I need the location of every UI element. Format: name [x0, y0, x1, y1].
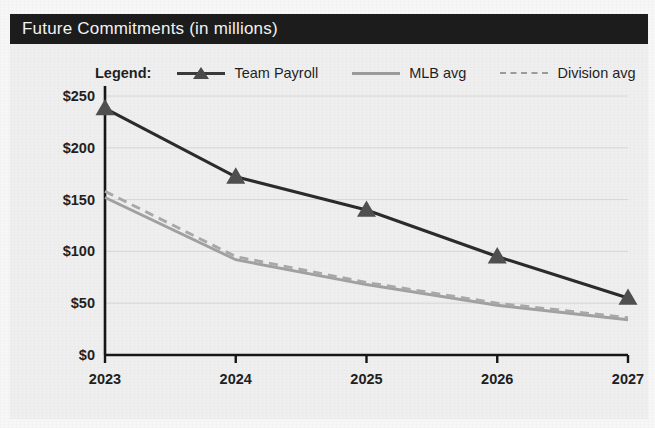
line-chart: $0$50$100$150$200$250 202320242025202620… — [10, 44, 648, 419]
y-tick-label: $200 — [63, 140, 95, 156]
x-tick-label: 2025 — [350, 371, 382, 387]
y-tick-label: $150 — [63, 192, 95, 208]
x-tick-label: 2026 — [481, 371, 513, 387]
data-point-marker — [226, 167, 245, 183]
page-title: Future Commitments (in millions) — [10, 19, 278, 39]
y-tick-label: $100 — [63, 243, 95, 259]
y-tick-label: $0 — [79, 347, 95, 363]
page-background: Future Commitments (in millions) Legend:… — [0, 0, 655, 428]
data-point-marker — [96, 99, 115, 115]
plot-area: Legend: Team Payroll MLB avg Division av — [10, 44, 648, 419]
x-axis-tick-labels: 20232024202520262027 — [89, 371, 644, 387]
y-tick-label: $50 — [71, 295, 95, 311]
x-tick-label: 2024 — [220, 371, 252, 387]
y-tick-label: $250 — [63, 88, 95, 104]
x-tick-label: 2027 — [612, 371, 644, 387]
x-tick-label: 2023 — [89, 371, 121, 387]
chart-title-bar: Future Commitments (in millions) — [10, 14, 648, 44]
y-axis-tick-labels: $0$50$100$150$200$250 — [63, 88, 95, 363]
